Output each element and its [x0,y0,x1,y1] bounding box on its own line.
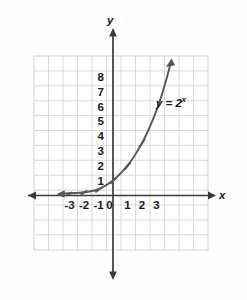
x-axis-label: x [218,189,226,201]
y-tick-label-2: 2 [98,160,104,172]
x-tick-label-0: 0 [106,199,112,211]
x-tick-label-1: 1 [124,199,131,211]
y-axis-arrow-down [109,272,117,281]
equation-exponent: x [181,95,187,104]
y-tick-label-7: 7 [98,86,104,98]
x-tick-label-neg1: -1 [93,199,104,211]
y-tick-label-1: 1 [98,175,105,187]
y-tick-label-5: 5 [98,115,105,127]
x-tick-label-neg2: -2 [79,199,89,211]
graph-figure: y x 1 2 3 4 5 6 7 8 -3 -2 -1 0 1 2 3 [0,0,247,300]
y-tick-label-3: 3 [98,145,104,157]
y-axis-arrow-up [109,28,117,37]
x-tick-label-neg3: -3 [64,199,74,211]
x-tick-label-3: 3 [153,199,159,211]
y-axis-label: y [106,14,114,26]
y-tick-label-8: 8 [98,71,105,83]
x-tick-label-2: 2 [139,199,145,211]
y-tick-label-6: 6 [98,101,104,113]
coordinate-plane-svg: y x 1 2 3 4 5 6 7 8 -3 -2 -1 0 1 2 3 [0,0,247,300]
y-tick-label-4: 4 [98,130,105,142]
equation-label: y = 2 [155,97,183,109]
equation-annotation: y = 2 x [155,95,187,109]
x-axis-arrow-left [28,192,36,200]
x-axis-arrow-right [208,192,216,200]
